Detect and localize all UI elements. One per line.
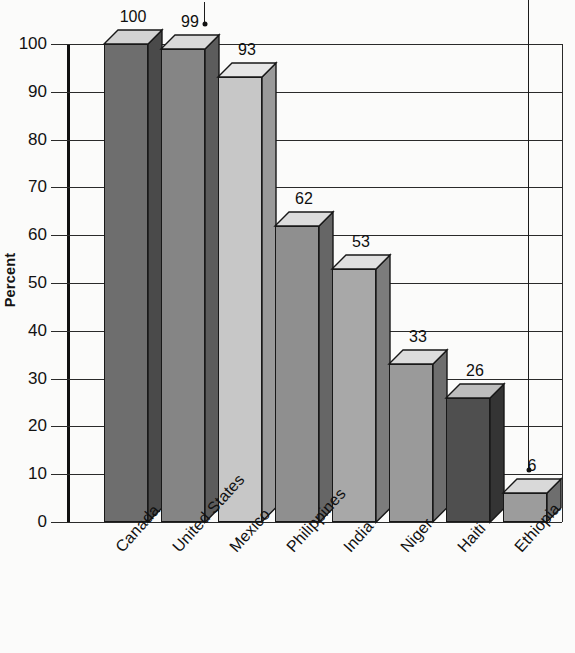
y-axis-tick bbox=[51, 92, 84, 93]
y-axis-tick bbox=[51, 474, 84, 475]
bar-top-face bbox=[104, 30, 162, 44]
y-axis-tick-label: 20 bbox=[5, 416, 47, 436]
bar-front-face bbox=[332, 269, 376, 522]
pointer-to-ethiopia-line bbox=[528, 0, 529, 470]
y-axis-tick bbox=[51, 44, 84, 45]
y-axis-tick-label: 90 bbox=[5, 82, 47, 102]
bar-niger[interactable] bbox=[389, 350, 433, 522]
bar-top-face bbox=[218, 63, 276, 77]
y-axis-tick-label: 50 bbox=[5, 273, 47, 293]
bar-side-face bbox=[262, 63, 276, 508]
y-axis-tick bbox=[51, 331, 84, 332]
bar-side-face bbox=[205, 35, 219, 508]
bar-front-face bbox=[446, 398, 490, 522]
bar-value-label: 62 bbox=[295, 190, 313, 208]
bar-mexico[interactable] bbox=[218, 63, 262, 522]
bar-value-label: 93 bbox=[238, 41, 256, 59]
bar-united-states[interactable] bbox=[161, 35, 205, 522]
bar-value-label: 53 bbox=[352, 233, 370, 251]
y-axis-tick-label: 10 bbox=[5, 464, 47, 484]
bar-front-face bbox=[161, 49, 205, 522]
bar-value-label: 33 bbox=[409, 328, 427, 346]
bar-front-face bbox=[104, 44, 148, 522]
plot-area bbox=[84, 44, 562, 522]
y-axis-tick bbox=[51, 379, 84, 380]
bar-front-face bbox=[503, 493, 547, 522]
x-axis-label-haiti: Haiti bbox=[454, 519, 489, 556]
y-axis-tick bbox=[51, 426, 84, 427]
bar-value-label: 99 bbox=[181, 13, 199, 31]
bar-top-face bbox=[275, 212, 333, 226]
plot-right-border bbox=[562, 44, 563, 522]
bar-top-face bbox=[161, 35, 219, 49]
bar-side-face bbox=[376, 255, 390, 508]
bar-philippines[interactable] bbox=[275, 212, 319, 522]
bar-top-face bbox=[503, 479, 561, 493]
bar-value-label: 26 bbox=[466, 362, 484, 380]
y-axis-tick-labels: 0102030405060708090100 bbox=[0, 0, 47, 653]
y-axis-tick bbox=[51, 283, 84, 284]
y-axis-tick-label: 100 bbox=[5, 34, 47, 54]
y-axis-tick-label: 30 bbox=[5, 369, 47, 389]
bar-side-face bbox=[319, 212, 333, 508]
bar-haiti[interactable] bbox=[446, 384, 490, 522]
y-axis-tick bbox=[51, 522, 84, 523]
bar-ethiopia[interactable] bbox=[503, 479, 547, 522]
bar-canada[interactable] bbox=[104, 30, 148, 522]
y-axis-tick-label: 80 bbox=[5, 130, 47, 150]
bar-india[interactable] bbox=[332, 255, 376, 522]
bar-top-face bbox=[446, 384, 504, 398]
bar-value-label: 100 bbox=[120, 8, 147, 26]
y-axis-tick-label: 70 bbox=[5, 177, 47, 197]
y-axis-tick-label: 0 bbox=[5, 512, 47, 532]
bar-chart: Percent 0102030405060708090100 CanadaUni… bbox=[0, 0, 575, 653]
bar-side-face bbox=[433, 350, 447, 508]
bar-side-face bbox=[148, 30, 162, 508]
bar-front-face bbox=[275, 226, 319, 522]
bar-top-face bbox=[332, 255, 390, 269]
y-axis-tick bbox=[51, 235, 84, 236]
y-axis-tick bbox=[51, 140, 84, 141]
pointer-to-united-states-arrowhead-icon bbox=[203, 22, 208, 27]
bar-side-face bbox=[490, 384, 504, 508]
y-axis-tick bbox=[51, 187, 84, 188]
y-axis-tick-label: 40 bbox=[5, 321, 47, 341]
y-axis-tick-label: 60 bbox=[5, 225, 47, 245]
x-axis-label-india: India bbox=[340, 517, 377, 556]
bar-front-face bbox=[389, 364, 433, 522]
bar-value-label: 6 bbox=[528, 457, 537, 475]
bar-front-face bbox=[218, 77, 262, 522]
bar-top-face bbox=[389, 350, 447, 364]
